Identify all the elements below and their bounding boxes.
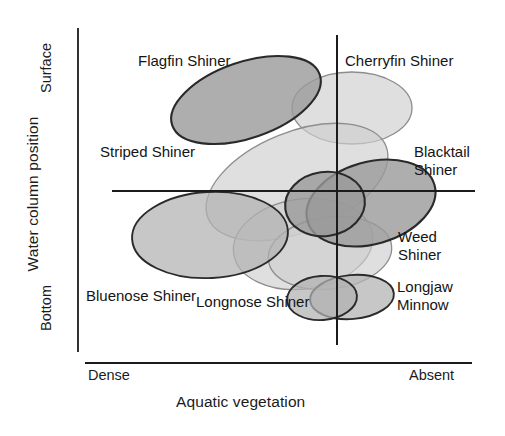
x-axis-title: Aquatic vegetation xyxy=(176,393,305,411)
x-tick-label-absent: Absent xyxy=(409,367,454,383)
species-label-striped-shiner: Striped Shiner xyxy=(100,143,195,161)
species-label-longjaw-minnow: Longjaw Minnow xyxy=(397,278,453,313)
species-label-cherryfin-shiner: Cherryfin Shiner xyxy=(345,52,453,70)
niche-diagram-figure: Water column position Surface Bottom Aqu… xyxy=(0,0,505,436)
y-tick-label-surface: Surface xyxy=(38,18,54,118)
y-tick-label-bottom: Bottom xyxy=(38,268,54,348)
species-label-blacktail-shiner: Blacktail Shiner xyxy=(414,143,470,178)
species-label-flagfin-shiner: Flagfin Shiner xyxy=(138,52,231,70)
species-label-longnose-shiner: Longnose Shiner xyxy=(196,293,309,311)
species-label-weed-shiner: Weed Shiner xyxy=(398,228,441,263)
y-axis-title: Water column position xyxy=(24,99,42,289)
x-tick-label-dense: Dense xyxy=(88,367,130,383)
species-label-bluenose-shiner: Bluenose Shiner xyxy=(86,287,196,305)
